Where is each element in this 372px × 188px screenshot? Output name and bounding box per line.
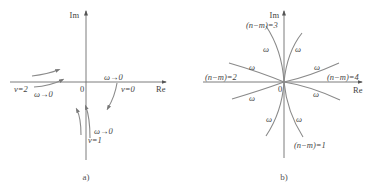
nu2-omega-label: ω→0 <box>34 89 54 99</box>
nm1-label: (n−m)=1 <box>294 140 326 150</box>
im-label-b: Im <box>270 10 280 20</box>
nu1-label: ν=1 <box>88 135 102 145</box>
omega-label-nm1-left: ω <box>266 114 272 124</box>
re-label-a: Re <box>156 84 166 94</box>
nu2-label: ν=2 <box>14 84 29 94</box>
curve-nu1-left <box>77 110 81 135</box>
curve-nm2-lower <box>232 82 284 99</box>
caption-a: a) <box>83 172 90 182</box>
nu0-omega-label: ω→0 <box>104 72 124 82</box>
omega-label-nm3-left: ω <box>263 44 269 54</box>
nm2-label: (n−m)=2 <box>205 72 238 82</box>
nu0-label: ν=0 <box>121 84 136 94</box>
nm3-label: (n−m)=3 <box>246 20 278 30</box>
caption-b: b) <box>280 172 288 182</box>
origin-label-b: 0 <box>278 84 282 94</box>
re-label-b: Re <box>353 85 363 95</box>
omega-label-nm3-right: ω <box>295 44 301 54</box>
origin-label-a: 0 <box>80 84 84 94</box>
curve-nu0 <box>108 83 117 108</box>
nm4-label: (n−m)=4 <box>327 72 360 82</box>
omega-label-nm4-lower: ω <box>313 89 319 99</box>
panel-a: Im Re 0 ν=2 ω→0 ω→0 ν=0 ω→0 ν=1 a) <box>10 10 166 182</box>
curve-nm3-right <box>284 33 302 82</box>
omega-label-nm2-upper: ω <box>249 62 255 72</box>
curve-nu2-upper <box>32 70 58 76</box>
omega-label-nm2-lower: ω <box>249 93 255 103</box>
curve-nm1-right <box>284 82 303 137</box>
im-label-a: Im <box>70 10 80 20</box>
panel-b: Im Re 0 (n−m)=3 (n−m)=2 (n−m)=4 (n−m)=1 … <box>203 10 363 182</box>
curve-nm4-lower <box>284 82 340 100</box>
curve-nm3-left <box>266 26 284 82</box>
curve-nu2-lower <box>34 80 62 87</box>
curve-nu1-right <box>86 107 90 138</box>
omega-label-nm1-right: ω <box>296 114 302 124</box>
omega-label-nm4-upper: ω <box>314 62 320 72</box>
curve-nm2-upper <box>229 63 284 82</box>
diagram-canvas: Im Re 0 ν=2 ω→0 ω→0 ν=0 ω→0 ν=1 a) Im Re… <box>0 0 372 188</box>
